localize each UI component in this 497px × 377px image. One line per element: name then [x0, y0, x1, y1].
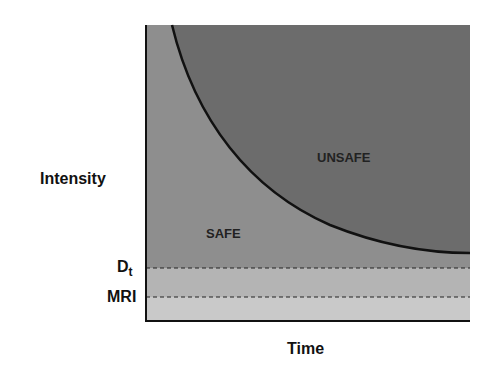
- safe-label: SAFE: [206, 226, 241, 241]
- band-below-mri: [146, 297, 470, 321]
- band-dt-mri: [146, 268, 470, 297]
- dt-label-sub: t: [129, 265, 133, 279]
- x-axis-label: Time: [287, 340, 324, 358]
- mri-label: MRI: [107, 288, 136, 306]
- y-axis-label: Intensity: [40, 170, 106, 188]
- dt-label-main: D: [117, 258, 129, 275]
- dt-label: Dt: [117, 258, 133, 279]
- unsafe-label: UNSAFE: [317, 150, 370, 165]
- diagram-canvas: [0, 0, 497, 377]
